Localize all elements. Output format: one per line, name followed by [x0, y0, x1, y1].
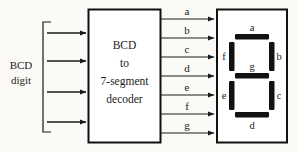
input-bus-label: BCD digit — [10, 58, 33, 88]
segment-label-c: c — [277, 89, 282, 102]
segment-e-shape — [229, 81, 235, 110]
segment-label-e: e — [222, 89, 227, 102]
decoder-block-text-line-2: to — [120, 57, 129, 70]
segment-f-shape — [229, 42, 235, 71]
decoder-block-text-line-1: BCD — [113, 39, 137, 52]
segment-label-b: b — [276, 50, 281, 63]
input-bus-bracket — [43, 22, 51, 132]
decoder-block-text-line-4: decoder — [106, 93, 142, 106]
output-label-a: a — [185, 5, 190, 18]
output-label-c: c — [185, 43, 190, 56]
bcd-seven-segment-diagram: BCD digit BCD to 7-segment decoder a b c… — [0, 0, 297, 152]
decoder-block-text-line-3: 7-segment — [101, 75, 149, 88]
segment-g-shape — [235, 73, 269, 79]
segment-label-d: d — [249, 119, 254, 132]
segment-label-f: f — [222, 50, 226, 63]
segment-d-shape — [235, 112, 269, 118]
segment-label-a: a — [250, 21, 255, 34]
input-bus-label-line1: BCD — [10, 58, 33, 73]
segment-c-shape — [269, 81, 275, 110]
segment-label-g: g — [249, 60, 254, 73]
output-label-b: b — [184, 24, 190, 37]
output-label-e: e — [185, 81, 190, 94]
segment-b-shape — [269, 42, 275, 71]
output-label-g: g — [184, 119, 190, 132]
input-bus-arrows — [47, 33, 86, 122]
output-label-d: d — [184, 62, 190, 75]
segment-a-shape — [235, 34, 269, 40]
input-bus-label-line2: digit — [10, 73, 33, 88]
output-label-f: f — [185, 100, 189, 113]
